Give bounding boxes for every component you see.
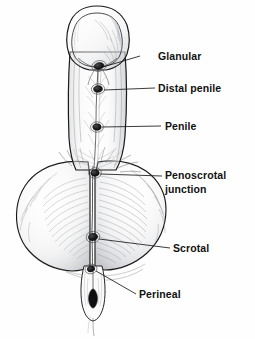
anatomical-diagram: Glanular Distal penile Penile Penoscrota… — [0, 0, 255, 339]
scrotal-raphe — [92, 166, 93, 270]
label-penoscrotal-junction-line1: Penoscrotal — [165, 169, 249, 183]
label-distal-penile: Distal penile — [158, 82, 221, 95]
label-scrotal: Scrotal — [173, 242, 209, 255]
label-penoscrotal-junction-line2: junction — [165, 183, 249, 197]
label-penile: Penile — [165, 120, 197, 133]
label-penoscrotal-junction: Penoscrotal junction — [165, 169, 249, 196]
perineum-group — [81, 266, 105, 336]
label-glanular: Glanular — [158, 50, 201, 63]
scrotum-left-outline — [17, 161, 91, 271]
meatus-opening — [93, 124, 102, 131]
anal-verge — [89, 289, 98, 308]
label-perineal: Perineal — [139, 288, 181, 301]
